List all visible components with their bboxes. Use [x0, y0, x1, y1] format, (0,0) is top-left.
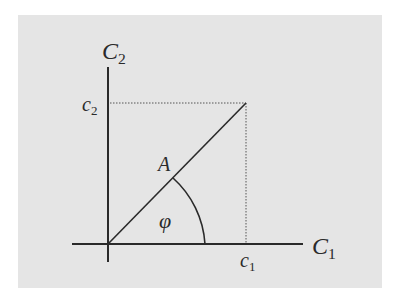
c1-component-label: c1	[240, 250, 255, 273]
x-axis-label: C1	[312, 234, 336, 261]
angle-phi-label: φ	[159, 210, 171, 232]
c2-component-label: c2	[82, 94, 97, 117]
angle-phi-arc	[173, 178, 205, 244]
vector-diagram	[0, 0, 398, 302]
y-axis-label: C2	[102, 39, 126, 66]
vector-a-label: A	[158, 154, 170, 174]
vector-a-line	[108, 103, 246, 244]
